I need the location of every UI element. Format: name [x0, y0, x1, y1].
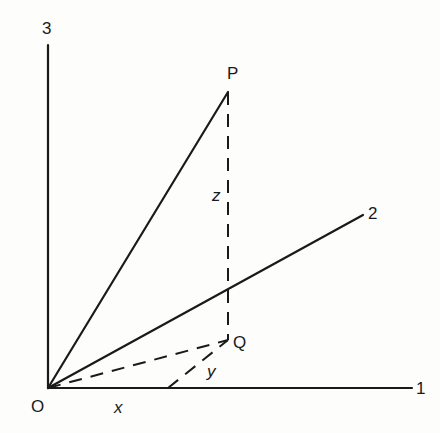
- op-vector-line: [48, 92, 228, 388]
- axis-2-label: 2: [368, 204, 377, 223]
- axis-2-line: [48, 215, 363, 388]
- z-component-label: z: [211, 186, 221, 205]
- point-q-label: Q: [233, 333, 246, 352]
- coordinate-diagram: 3 2 1 P Q O x y z: [0, 0, 440, 433]
- axis-1-label: 1: [416, 379, 425, 398]
- oq-projection-dashed-line: [48, 340, 228, 388]
- diagram-canvas: 3 2 1 P Q O x y z: [0, 0, 440, 433]
- point-p-label: P: [227, 64, 238, 83]
- x-component-label: x: [113, 398, 123, 417]
- axis-3-label: 3: [42, 19, 51, 38]
- y-component-label: y: [206, 362, 217, 381]
- origin-label: O: [31, 397, 44, 416]
